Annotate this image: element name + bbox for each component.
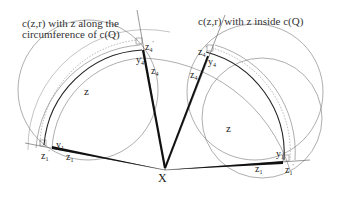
left-thick-arc <box>44 50 142 145</box>
right-big-circle <box>187 24 323 160</box>
z-right-label: z <box>226 123 231 134</box>
thick-seg-right-top <box>165 56 208 168</box>
caption-left-line2: circumference of c(Q) <box>22 29 120 40</box>
label-right-z4: z4 <box>190 70 197 81</box>
z-left-label: z <box>84 86 89 97</box>
label-left-z4: z4 <box>151 66 158 77</box>
label-left-y1: y1 <box>56 140 64 151</box>
label-left-y4: y4 <box>136 55 144 66</box>
right-thick-arc <box>206 52 284 160</box>
caption-right: c(z,r) with z inside c(Q) <box>198 16 303 27</box>
label-right-y1: y1 <box>276 149 284 160</box>
label-left-z4prime: z4' <box>145 40 154 53</box>
point-x-label: X <box>158 172 167 184</box>
angle-box-lt <box>136 38 142 44</box>
left-inner-arc <box>52 58 142 148</box>
right-dotted-arc <box>212 48 290 160</box>
label-right-z1prime: z1' <box>285 163 294 176</box>
right-cq-circle <box>202 58 322 178</box>
label-right-y4: y4 <box>208 57 216 68</box>
label-right-z4prime: z4' <box>198 45 207 58</box>
label-left-z1prime: z1' <box>41 149 50 162</box>
label-right-z1: z1 <box>255 164 262 175</box>
label-left-z1: z1 <box>66 152 73 163</box>
